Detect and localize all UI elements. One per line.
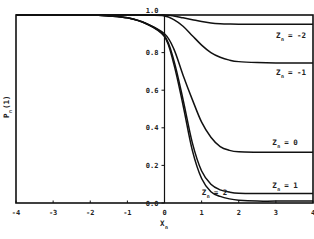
x-tick-label: 2 (237, 209, 241, 217)
y-tick-label: 0.4 (146, 124, 159, 132)
x-tick-label: 1 (200, 209, 204, 217)
svg-text:n: n (277, 186, 280, 192)
svg-text:= 0: = 0 (284, 138, 298, 147)
x-tick-label: 4 (311, 209, 314, 217)
x-tick-label: 0 (162, 209, 166, 217)
x-tick-label: 3 (274, 209, 278, 217)
curve-label: Zn= 1 (272, 181, 298, 192)
svg-text:= 2: = 2 (214, 188, 228, 197)
curve-label: Zn= 0 (272, 138, 298, 149)
y-tick-label: 0.8 (146, 49, 159, 57)
svg-text:n: n (207, 193, 210, 199)
curve-label: Zn= -2 (276, 31, 306, 42)
plot-frame (16, 15, 313, 203)
svg-text:n: n (281, 73, 284, 79)
svg-text:n: n (281, 36, 284, 42)
x-axis-label: X n (160, 219, 168, 230)
svg-text:n: n (277, 143, 280, 149)
y-tick-label: 0.6 (146, 87, 159, 95)
svg-text:= -2: = -2 (288, 31, 306, 40)
svg-text:n: n (7, 110, 13, 113)
y-tick-label: 0.2 (146, 162, 159, 170)
y-tick-label: 0.0 (146, 200, 159, 208)
svg-text:= 1: = 1 (284, 181, 298, 190)
svg-text:(1): (1) (2, 95, 11, 109)
curve-label: Zn= -1 (276, 68, 307, 79)
x-tick-label: -1 (123, 209, 131, 217)
svg-text:n: n (165, 224, 168, 230)
svg-text:= -1: = -1 (288, 68, 307, 77)
y-tick-label: 1.0 (146, 7, 159, 15)
y-axis-label: P n (1) (2, 95, 13, 118)
y-axis-ticks: 0.00.20.40.60.81.0 (146, 7, 165, 208)
x-tick-label: -2 (86, 209, 94, 217)
probability-chart: -4-3-2-101234 0.00.20.40.60.81.0 Zn= -2Z… (0, 0, 314, 239)
x-tick-label: -4 (12, 209, 20, 217)
x-tick-label: -3 (49, 209, 57, 217)
